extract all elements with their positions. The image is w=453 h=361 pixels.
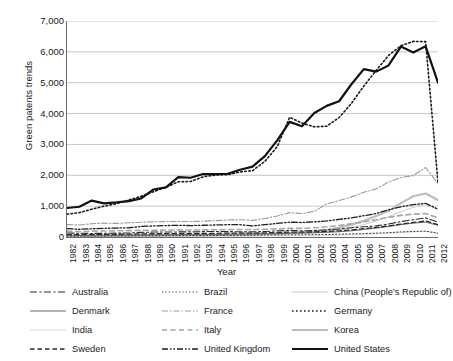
- legend-item-united-states[interactable]: United States: [292, 339, 447, 358]
- legend-item-sweden[interactable]: Sweden: [30, 339, 162, 358]
- x-tick-label: 1984: [94, 244, 103, 263]
- legend-swatch-icon: [30, 306, 66, 316]
- legend-label: France: [204, 306, 233, 316]
- legend-swatch-icon: [162, 344, 198, 354]
- series-line-united-states: [67, 46, 438, 208]
- x-tick-label: 1998: [267, 244, 276, 263]
- series-line-united-kingdom: [67, 203, 438, 229]
- y-axis-tick-labels: 7,0006,0005,0004,0003,0002,0001,0000: [26, 0, 64, 250]
- legend-label: United Kingdom: [204, 344, 270, 354]
- y-tick-label: 6,000: [30, 47, 64, 57]
- x-tick-label: 2011: [428, 245, 437, 263]
- x-tick-label: 1992: [193, 244, 202, 263]
- legend-item-brazil[interactable]: Brazil: [162, 282, 292, 301]
- legend-item-germany[interactable]: Germany: [292, 301, 447, 320]
- x-tick-label: 2007: [378, 244, 387, 263]
- legend-label: Sweden: [72, 344, 106, 354]
- x-tick-label: 1986: [119, 244, 128, 263]
- x-tick-label: 2004: [341, 244, 350, 263]
- y-tick-label: 0: [30, 232, 64, 242]
- x-tick-label: 2010: [416, 244, 425, 263]
- legend-label: Australia: [72, 287, 108, 297]
- legend-item-united-kingdom[interactable]: United Kingdom: [162, 339, 292, 358]
- green-patents-trends-chart: Green patents trends 7,0006,0005,0004,00…: [0, 0, 453, 361]
- x-tick-label: 1999: [280, 244, 289, 263]
- x-tick-label: 1997: [255, 244, 264, 263]
- chart-legend: AustraliaBrazilChina (People's Republic …: [30, 282, 440, 358]
- x-tick-label: 1989: [156, 244, 165, 263]
- x-tick-label: 1990: [168, 244, 177, 263]
- legend-swatch-icon: [292, 306, 328, 316]
- legend-label: Korea: [334, 325, 359, 335]
- x-tick-label: 2000: [292, 244, 301, 263]
- legend-item-italy[interactable]: Italy: [162, 320, 292, 339]
- legend-swatch-icon: [292, 287, 328, 297]
- legend-swatch-icon: [162, 306, 198, 316]
- legend-swatch-icon: [30, 287, 66, 297]
- legend-label: Denmark: [72, 306, 110, 316]
- x-tick-label: 1996: [242, 244, 251, 263]
- x-tick-label: 2002: [317, 244, 326, 263]
- series-line-korea: [67, 193, 438, 236]
- legend-item-denmark[interactable]: Denmark: [30, 301, 162, 320]
- legend-label: United States: [334, 344, 390, 354]
- x-tick-label: 1983: [82, 244, 91, 263]
- series-line-germany: [67, 41, 438, 214]
- series-line-italy: [67, 214, 438, 232]
- x-tick-label: 2003: [329, 244, 338, 263]
- legend-label: India: [72, 325, 92, 335]
- x-tick-label: 1993: [205, 244, 214, 263]
- legend-item-france[interactable]: France: [162, 301, 292, 320]
- legend-label: Germany: [334, 306, 372, 316]
- legend-label: China (People's Republic of): [334, 287, 452, 297]
- x-tick-label: 1987: [131, 244, 140, 263]
- x-tick-label: 2009: [403, 244, 412, 263]
- x-tick-label: 2006: [366, 244, 375, 263]
- x-tick-label: 1982: [69, 244, 78, 263]
- plot-svg: [67, 21, 438, 237]
- x-tick-label: 1988: [144, 244, 153, 263]
- legend-swatch-icon: [30, 344, 66, 354]
- legend-item-china-people-s-republic-of[interactable]: China (People's Republic of): [292, 282, 447, 301]
- x-axis-tick-labels: 1982198319841985198619871988198919901991…: [66, 239, 437, 265]
- legend-swatch-icon: [162, 325, 198, 335]
- x-tick-label: 1991: [181, 244, 190, 263]
- legend-label: Brazil: [204, 287, 227, 297]
- y-tick-label: 5,000: [30, 78, 64, 88]
- x-axis-title: Year: [0, 266, 453, 277]
- y-tick-label: 4,000: [30, 109, 64, 119]
- legend-swatch-icon: [292, 344, 328, 354]
- legend-swatch-icon: [292, 325, 328, 335]
- x-tick-label: 2001: [304, 244, 313, 263]
- y-tick-label: 3,000: [30, 139, 64, 149]
- x-tick-label: 1985: [106, 244, 115, 263]
- plot-area: [66, 21, 438, 238]
- series-line-france: [67, 168, 438, 225]
- x-tick-label: 2008: [391, 244, 400, 263]
- x-tick-label: 1995: [230, 244, 239, 263]
- legend-item-korea[interactable]: Korea: [292, 320, 447, 339]
- legend-item-india[interactable]: India: [30, 320, 162, 339]
- x-tick-label: 2012: [440, 244, 449, 263]
- y-tick-label: 7,000: [30, 16, 64, 26]
- y-tick-label: 2,000: [30, 170, 64, 180]
- legend-label: Italy: [204, 325, 221, 335]
- legend-swatch-icon: [162, 287, 198, 297]
- x-tick-label: 2005: [354, 244, 363, 263]
- legend-swatch-icon: [30, 325, 66, 335]
- legend-item-australia[interactable]: Australia: [30, 282, 162, 301]
- y-tick-label: 1,000: [30, 201, 64, 211]
- x-tick-label: 1994: [218, 244, 227, 263]
